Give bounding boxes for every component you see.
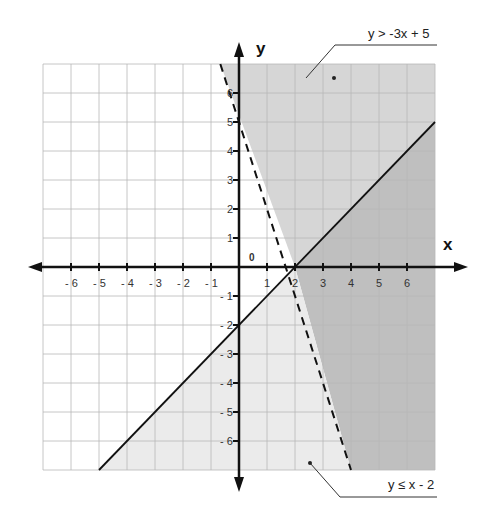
x-tick-label: - 6	[65, 277, 78, 289]
y-tick-label: - 3	[220, 348, 233, 360]
x-tick-label: - 5	[93, 277, 106, 289]
y-tick-label: - 5	[220, 406, 233, 418]
y-tick-label: - 1	[220, 290, 233, 302]
x-tick-label: 3	[320, 277, 326, 289]
x-tick-label: 2	[292, 277, 298, 289]
x-tick-label: 5	[376, 277, 382, 289]
y-tick-label: - 6	[220, 435, 233, 447]
x-tick-label: 6	[404, 277, 410, 289]
y-tick-label: 3	[227, 174, 233, 186]
x-tick-label: - 2	[177, 277, 190, 289]
x-axis-label: x	[443, 235, 453, 254]
x-tick-label: - 4	[121, 277, 134, 289]
inequality-graph: - 6- 5- 4- 3- 2- 1123456654321- 1- 2- 3-…	[0, 0, 477, 523]
y-axis-label: y	[256, 39, 266, 58]
x-tick-label: 1	[264, 277, 270, 289]
y-tick-label: 6	[227, 87, 233, 99]
annotation-label-a: y > -3x + 5	[368, 26, 429, 41]
y-tick-label: 2	[227, 203, 233, 215]
y-tick-label: 5	[227, 116, 233, 128]
y-tick-label: - 4	[220, 377, 233, 389]
y-tick-label: - 2	[220, 319, 233, 331]
annotation-label-b: y ≤ x - 2	[388, 477, 434, 492]
x-tick-label: - 1	[205, 277, 218, 289]
y-tick-label: 4	[227, 145, 233, 157]
origin-label: 0	[249, 252, 255, 263]
x-tick-label: - 3	[149, 277, 162, 289]
y-tick-label: 1	[227, 232, 233, 244]
x-tick-label: 4	[348, 277, 354, 289]
